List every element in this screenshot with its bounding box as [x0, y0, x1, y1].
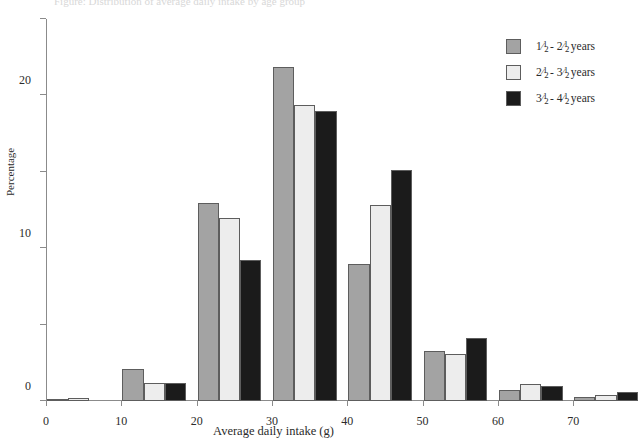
fraction: 1⁄2 [542, 94, 547, 103]
bar [122, 369, 143, 401]
mixed-number: 31⁄2 [557, 66, 568, 78]
x-axis-tick: 30 [272, 401, 273, 406]
legend-item[interactable]: 31⁄2 - 41⁄2 years [506, 85, 595, 111]
x-axis-tick: 20 [197, 401, 198, 406]
bar [574, 397, 595, 401]
cropped-title-strip: Figure: Distribution of average daily in… [0, 0, 639, 8]
legend-label: 11⁄2 - 21⁄2 years [536, 40, 595, 52]
y-axis-title: Percentage [4, 148, 16, 196]
mixed-number: 21⁄2 [557, 40, 568, 52]
fraction: 1⁄2 [563, 94, 568, 103]
bar [348, 264, 369, 401]
x-axis-tick: 0 [46, 401, 47, 406]
legend-swatch [506, 91, 521, 106]
bar [499, 390, 520, 401]
y-axis-tick: 40 [40, 94, 46, 95]
bar [68, 398, 89, 401]
bar [370, 205, 391, 401]
x-axis-title-text: Average daily intake (g) [213, 424, 334, 438]
x-axis-tick: 10 [121, 401, 122, 406]
mixed-number: 11⁄2 [536, 40, 547, 52]
bar [520, 384, 541, 401]
y-axis-tick: 50 [40, 18, 46, 19]
legend-swatch [506, 65, 521, 80]
bar [315, 111, 336, 401]
bar [165, 383, 186, 401]
bar [466, 338, 487, 401]
legend-label: 21⁄2 - 31⁄2 years [536, 66, 595, 78]
y-axis-tick-label: 0 [25, 379, 31, 394]
y-axis-tick: 20 [40, 247, 46, 248]
mixed-number: 31⁄2 [536, 92, 547, 104]
bar [219, 218, 240, 401]
bar [424, 351, 445, 401]
legend-item[interactable]: 11⁄2 - 21⁄2 years [506, 33, 595, 59]
mixed-number: 21⁄2 [536, 66, 547, 78]
bar [273, 67, 294, 401]
x-axis-tick: 70 [573, 401, 574, 406]
bar [595, 395, 616, 401]
y-axis-tick: 30 [40, 171, 46, 172]
x-axis-tick: 50 [423, 401, 424, 406]
bar [617, 392, 638, 401]
y-axis-tick: 10 [40, 324, 46, 325]
legend: 11⁄2 - 21⁄2 years21⁄2 - 31⁄2 years31⁄2 -… [506, 33, 595, 111]
fraction: 1⁄2 [563, 68, 568, 77]
x-axis-title: Average daily intake (g) [0, 424, 639, 439]
bar [198, 203, 219, 401]
fraction: 1⁄2 [542, 68, 547, 77]
bar [294, 105, 315, 401]
y-axis-line [46, 19, 47, 401]
bar [391, 170, 412, 401]
y-axis-tick-label: 20 [19, 73, 31, 88]
x-axis-tick: 40 [347, 401, 348, 406]
mixed-number: 41⁄2 [557, 92, 568, 104]
fraction: 1⁄2 [542, 42, 547, 51]
fraction: 1⁄2 [563, 42, 568, 51]
legend-label: 31⁄2 - 41⁄2 years [536, 92, 595, 104]
bar [445, 354, 466, 401]
x-axis-tick: 60 [498, 401, 499, 406]
bar [240, 260, 261, 401]
bar [47, 399, 68, 401]
bar [144, 383, 165, 401]
bar [541, 386, 562, 401]
y-axis-tick-label: 10 [19, 226, 31, 241]
legend-swatch [506, 39, 521, 54]
legend-item[interactable]: 21⁄2 - 31⁄2 years [506, 59, 595, 85]
bar-chart-figure: Figure: Distribution of average daily in… [0, 0, 639, 444]
cropped-title-text: Figure: Distribution of average daily in… [54, 0, 305, 7]
